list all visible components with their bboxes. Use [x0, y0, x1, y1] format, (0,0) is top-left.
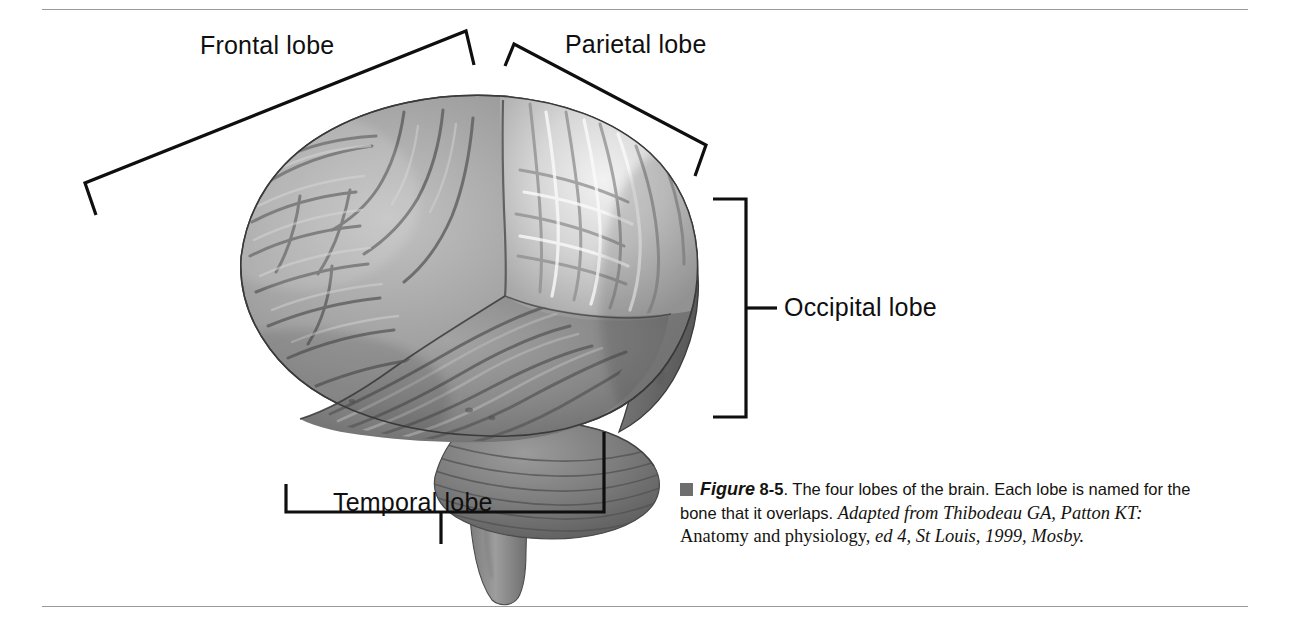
figure-caption-text: Figure 8-5. The four lobes of the brain.… [680, 480, 1190, 545]
caption-credit-edition: ed 4, St Louis, 1999, [875, 526, 1027, 546]
figure-caption: Figure 8-5. The four lobes of the brain.… [680, 478, 1200, 549]
caption-credit-publisher: Mosby. [1031, 526, 1084, 546]
square-bullet-icon [680, 483, 693, 496]
figure-page: Frontal lobe Parietal lobe Occipital lob… [0, 0, 1298, 643]
caption-credit-title: Anatomy and physiology, [680, 526, 870, 546]
brain-artwork [150, 95, 740, 604]
label-parietal-lobe: Parietal lobe [565, 32, 707, 57]
label-frontal-lobe: Frontal lobe [200, 33, 334, 58]
occipital-lobe-bracket [713, 199, 746, 417]
caption-figure-word: Figure [700, 479, 755, 499]
caption-credit-source: Adapted from Thibodeau GA, Patton KT: [838, 503, 1143, 523]
caption-figure-number: 8-5 [760, 480, 784, 498]
label-occipital-lobe: Occipital lobe [784, 295, 937, 320]
label-temporal-lobe: Temporal lobe [333, 490, 493, 515]
cerebrum-region [150, 95, 740, 470]
